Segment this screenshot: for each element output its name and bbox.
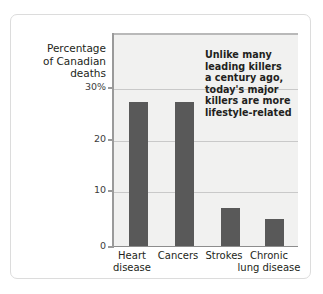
y-axis-title: Percentage of Canadian deaths xyxy=(14,42,106,80)
y-tick-20 xyxy=(108,139,112,141)
y-tick-0 xyxy=(108,246,112,248)
y-axis-spine xyxy=(112,33,114,248)
bar-heart-disease xyxy=(129,102,148,246)
y-tick-label-0: 0 xyxy=(68,241,106,251)
x-label-chronic-lung-disease: Chronic lung disease xyxy=(233,250,305,274)
y-tick-label-30: 30% xyxy=(68,82,106,92)
bar-chronic-lung-disease xyxy=(265,219,284,246)
y-tick-30 xyxy=(108,87,112,89)
bar-cancers xyxy=(175,102,194,246)
y-tick-label-10: 10 xyxy=(68,185,106,195)
y-tick-10 xyxy=(108,190,112,192)
chart-annotation: Unlike many leading killers a century ag… xyxy=(205,49,297,119)
y-tick-label-20: 20 xyxy=(68,134,106,144)
bar-strokes xyxy=(221,208,240,246)
x-axis-baseline xyxy=(113,246,298,248)
